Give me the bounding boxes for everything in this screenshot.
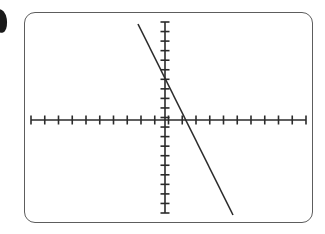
- screenshot-root: [0, 0, 325, 234]
- graph-plot: [0, 0, 325, 234]
- y-axis: [161, 22, 170, 213]
